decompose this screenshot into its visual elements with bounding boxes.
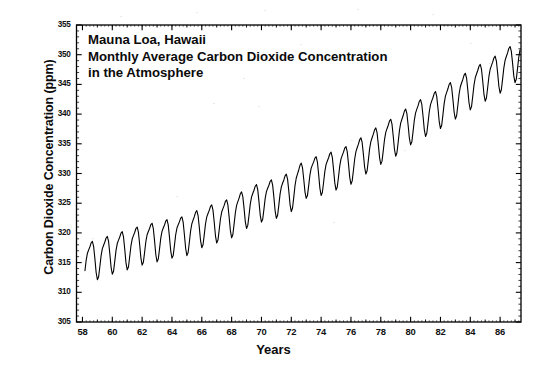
- scan-speckle: [140, 266, 142, 267]
- x-tick-label: 70: [246, 326, 276, 337]
- y-tick-label: 310: [45, 287, 71, 296]
- x-tick-label: 82: [425, 326, 455, 337]
- scan-speckle: [258, 106, 260, 107]
- x-tick-label: 62: [127, 326, 157, 337]
- scan-speckle: [357, 9, 359, 10]
- x-tick-label: 68: [217, 326, 247, 337]
- y-tick-label: 320: [45, 228, 71, 237]
- scan-speckle: [404, 150, 406, 151]
- y-tick-label: 350: [45, 50, 71, 59]
- annotation-line-3: in the Atmosphere: [88, 65, 387, 82]
- y-tick-label: 335: [45, 139, 71, 148]
- x-tick-label: 80: [396, 326, 426, 337]
- x-axis-label: Years: [0, 342, 547, 357]
- chart-annotation-title: Mauna Loa, Hawaii Monthly Average Carbon…: [88, 32, 387, 82]
- x-tick-label: 74: [306, 326, 336, 337]
- scan-speckle: [470, 43, 472, 44]
- scan-speckle: [300, 44, 302, 45]
- x-tick-label: 84: [455, 326, 485, 337]
- scan-speckle: [432, 14, 434, 15]
- annotation-line-2: Monthly Average Carbon Dioxide Concentra…: [88, 49, 387, 66]
- scan-speckle: [120, 16, 122, 17]
- annotation-line-1: Mauna Loa, Hawaii: [88, 32, 387, 49]
- x-tick-label: 78: [366, 326, 396, 337]
- x-tick-label: 58: [67, 326, 97, 337]
- x-tick-label: 72: [276, 326, 306, 337]
- x-tick-label: 64: [157, 326, 187, 337]
- scan-speckle: [213, 103, 215, 104]
- y-tick-label: 345: [45, 79, 71, 88]
- co2-keeling-curve-figure: Mauna Loa, Hawaii Monthly Average Carbon…: [0, 0, 547, 368]
- scan-speckle: [333, 222, 335, 223]
- x-tick-label: 60: [97, 326, 127, 337]
- scan-speckle: [351, 140, 353, 141]
- x-tick-label: 76: [336, 326, 366, 337]
- scan-speckle: [489, 63, 491, 64]
- x-tick-label: 86: [485, 326, 515, 337]
- scan-speckle: [196, 12, 198, 13]
- y-tick-label: 330: [45, 169, 71, 178]
- scan-speckle: [243, 78, 245, 79]
- y-tick-label: 315: [45, 258, 71, 267]
- y-tick-label: 340: [45, 109, 71, 118]
- y-tick-label: 355: [45, 20, 71, 29]
- y-tick-label: 325: [45, 198, 71, 207]
- y-axis-label: Carbon Dioxide Concentration (ppm): [42, 22, 56, 312]
- x-tick-label: 66: [187, 326, 217, 337]
- scan-speckle: [92, 238, 94, 239]
- scan-speckle: [176, 196, 178, 197]
- y-tick-label: 305: [45, 317, 71, 326]
- scan-speckle: [264, 10, 266, 11]
